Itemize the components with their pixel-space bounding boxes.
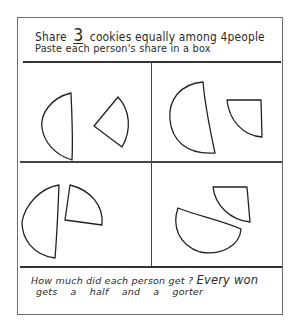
half-cookie-shape (170, 82, 215, 153)
half-cookie-shape (176, 208, 241, 253)
half-cookie-shape (42, 93, 73, 160)
quarter-cookie-shape (227, 100, 262, 137)
question-text: How much did each person get ? (31, 275, 193, 286)
box-top-right (170, 82, 262, 153)
answer-line: gets a half and a gorter (36, 286, 203, 297)
question-line: How much did each person get ? Every won (31, 273, 258, 287)
box-bottom-right (176, 187, 250, 253)
quarter-cookie-shape (65, 185, 102, 225)
half-cookie-shape (22, 185, 59, 258)
box-bottom-left (22, 185, 102, 258)
quarter-cookie-shape (213, 187, 250, 222)
answer-part-1: Every won (196, 273, 258, 287)
box-top-left (42, 93, 129, 160)
quarter-cookie-shape (94, 97, 128, 147)
